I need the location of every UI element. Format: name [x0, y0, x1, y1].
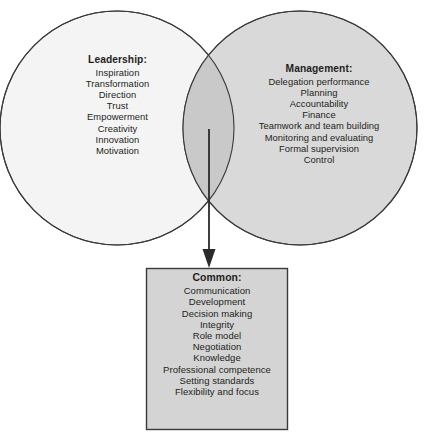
down-arrow-head-icon	[203, 249, 216, 268]
venn-diagram: Leadership: Inspiration Transformation D…	[0, 0, 427, 439]
common-box	[147, 269, 288, 430]
venn-shapes	[0, 0, 427, 439]
